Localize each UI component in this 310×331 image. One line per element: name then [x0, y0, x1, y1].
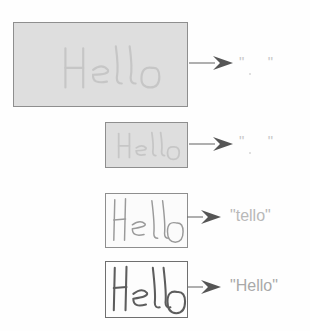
handwritten-hello-faint	[106, 194, 187, 247]
lowest-resolution-sample	[13, 22, 188, 107]
low-resolution-sample	[105, 122, 188, 168]
arrow-row-2	[189, 135, 235, 153]
output-row-4: "Hello"	[230, 278, 278, 294]
arrow-row-3	[187, 208, 223, 226]
speck-row-1	[249, 73, 251, 75]
high-resolution-sample	[105, 261, 188, 318]
output-row-3: "tello"	[230, 208, 271, 224]
arrow-row-1	[189, 54, 235, 72]
speck-row-2	[249, 152, 251, 154]
output-row-2: " "	[239, 133, 278, 148]
handwritten-hello-illegible	[14, 23, 187, 106]
handwritten-hello-illegible	[106, 123, 187, 167]
handwriting-recognition-figure: " " " "	[0, 0, 310, 331]
output-row-1: " "	[239, 54, 278, 69]
handwritten-hello-clear	[106, 262, 187, 317]
medium-resolution-sample	[105, 193, 188, 248]
arrow-row-4	[187, 278, 223, 296]
